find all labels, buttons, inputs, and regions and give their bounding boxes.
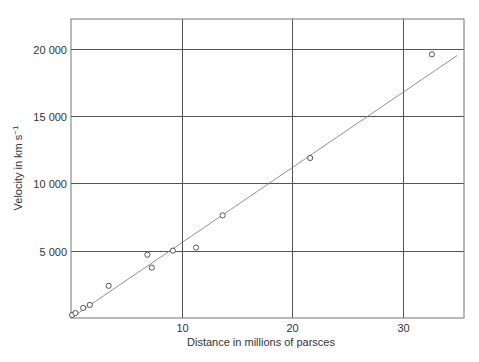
y-axis-label: Velocity in km s−1	[11, 125, 24, 210]
data-point-marker	[308, 155, 313, 160]
scatter-chart: 102030 5 00010 00015 00020 000 Distance …	[0, 0, 479, 362]
y-axis-ticks: 5 00010 00015 00020 000	[33, 44, 67, 258]
data-point-marker	[170, 248, 175, 253]
data-point-marker	[87, 302, 92, 307]
chart-canvas: 102030 5 00010 00015 00020 000 Distance …	[0, 0, 479, 362]
data-points	[70, 52, 435, 318]
y-tick-label: 5 000	[39, 246, 67, 258]
data-point-marker	[193, 245, 198, 250]
y-axis-label-superscript: −1	[11, 125, 20, 135]
y-axis-label-text: Velocity in km s	[12, 134, 24, 210]
x-axis-ticks: 102030	[176, 322, 409, 334]
plot-frame	[71, 19, 464, 318]
data-point-marker	[149, 265, 154, 270]
data-point-marker	[106, 283, 111, 288]
data-point-marker	[73, 310, 78, 315]
x-tick-label: 30	[397, 322, 409, 334]
y-tick-label: 10 000	[33, 178, 67, 190]
x-tick-label: 20	[286, 322, 298, 334]
y-tick-label: 20 000	[33, 44, 67, 56]
y-tick-label: 15 000	[33, 111, 67, 123]
data-point-marker	[220, 213, 225, 218]
grid-lines	[71, 19, 464, 318]
fit-line	[71, 55, 457, 318]
data-point-marker	[429, 52, 434, 57]
data-point-marker	[145, 252, 150, 257]
data-point-marker	[81, 305, 86, 310]
x-axis-label: Distance in millions of parsces	[187, 336, 335, 348]
x-tick-label: 10	[176, 322, 188, 334]
